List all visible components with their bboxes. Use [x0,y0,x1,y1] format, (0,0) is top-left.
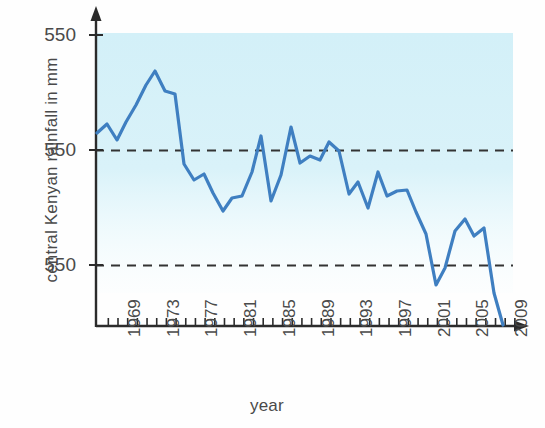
x-tick-label-2009: 2009 [512,299,532,337]
x-axis-title: year [250,396,284,416]
x-tick-label-2005: 2005 [473,299,493,337]
x-tick-label-1985: 1985 [280,299,300,337]
y-axis-title: central Kenyan rainfall in mm [42,20,62,320]
chart-plot-area [0,0,545,428]
x-tick-label-1997: 1997 [396,299,416,337]
shaded-band [97,33,513,293]
x-tick-label-1981: 1981 [241,299,261,337]
x-tick-label-1973: 1973 [164,299,184,337]
x-tick-label-1993: 1993 [357,299,377,337]
y-axis-arrow-icon [91,6,102,21]
chart-figure: 550 550 550 1969197319771981198519891993… [0,0,545,428]
x-tick-label-1969: 1969 [125,299,145,337]
x-tick-label-1977: 1977 [202,299,222,337]
x-tick-label-1989: 1989 [319,299,339,337]
x-tick-label-2001: 2001 [435,299,455,337]
